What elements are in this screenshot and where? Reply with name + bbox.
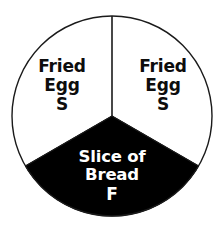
pie-chart-figure: Fried Egg S Fried Egg S Slice of Bread F [0,0,224,235]
pie-slice-bottom-filled [25,116,198,216]
pie-chart-graphic [0,0,224,235]
